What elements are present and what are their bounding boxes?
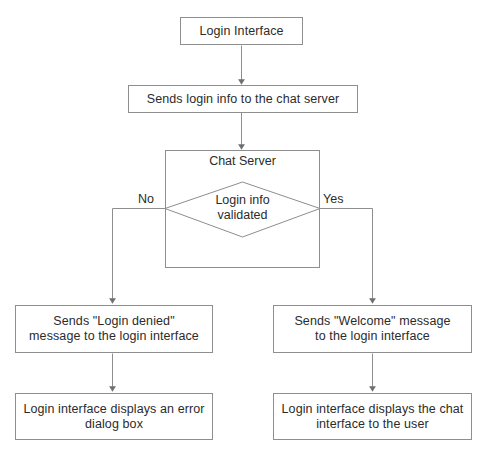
- edge-label-no: No: [138, 192, 154, 206]
- node-displays-chat-interface-line1: Login interface displays the chat: [282, 402, 464, 417]
- node-sends-login-denied-line2: message to the login interface: [29, 329, 199, 344]
- node-displays-chat-interface-line2: interface to the user: [282, 417, 464, 432]
- node-sends-welcome: Sends "Welcome" message to the login int…: [273, 305, 472, 353]
- container-chat-server-label: Chat Server: [165, 154, 320, 169]
- decision-label-line1: Login info: [177, 193, 308, 208]
- node-displays-error-dialog-line1: Login interface displays an error: [23, 402, 204, 417]
- edge-label-yes: Yes: [323, 192, 343, 206]
- node-login-interface-label: Login Interface: [199, 24, 283, 39]
- node-login-interface: Login Interface: [180, 17, 303, 45]
- decision-label-line2: validated: [177, 208, 308, 223]
- node-sends-welcome-line2: to the login interface: [294, 329, 450, 344]
- node-displays-error-dialog: Login interface displays an error dialog…: [15, 393, 213, 440]
- node-sends-login-denied-line1: Sends "Login denied": [29, 314, 199, 329]
- node-sends-login-denied: Sends "Login denied" message to the logi…: [15, 305, 213, 353]
- node-displays-chat-interface: Login interface displays the chat interf…: [273, 393, 472, 440]
- node-sends-welcome-line1: Sends "Welcome" message: [294, 314, 450, 329]
- node-sends-login-info-label: Sends login info to the chat server: [147, 92, 340, 107]
- node-displays-error-dialog-line2: dialog box: [23, 417, 204, 432]
- flowchart-canvas: Login Interface Sends login info to the …: [0, 0, 487, 456]
- edge-yes-branch: [320, 209, 373, 302]
- edge-no-branch: [113, 209, 166, 302]
- node-sends-login-info: Sends login info to the chat server: [128, 85, 358, 113]
